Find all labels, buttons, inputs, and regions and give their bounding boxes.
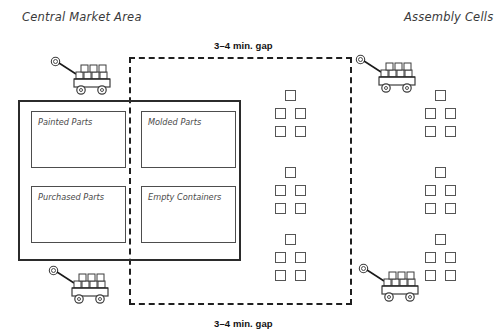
cart-hitch-ring-icon [359,264,367,272]
assembly-workstation-square [445,252,456,263]
assembly-workstation-square [275,252,286,263]
assembly-workstation-square [295,185,306,196]
market-bin-label: Molded Parts [148,117,201,127]
tugger-cart-bottom-left [48,264,120,306]
assembly-workstation-square [425,108,436,119]
cart-hitch-ring-icon [356,55,364,63]
page-title-assembly-cells: Assembly Cells [404,10,493,24]
tugger-cart-top-right [355,53,427,95]
cart-hitch-ring-icon [51,57,59,65]
assembly-workstation-square [275,203,286,214]
assembly-workstation-square [445,203,456,214]
cart-load-box [397,70,404,77]
assembly-workstation-square [445,126,456,137]
cart-load-box [99,65,106,72]
gap-label-bottom: 3–4 min. gap [214,318,273,329]
assembly-workstation-square [285,234,296,245]
page-title-central-market-area: Central Market Area [22,10,142,24]
tugger-cart-top-left [50,55,122,97]
cart-load-box [404,63,411,70]
assembly-workstation-square [445,270,456,281]
assembly-workstation-square [285,90,296,101]
assembly-cell-5 [275,234,306,281]
cart-load-box [398,272,405,279]
cart-load-box [395,63,402,70]
assembly-workstation-square [295,108,306,119]
assembly-workstation-square [425,126,436,137]
cart-load-box [389,272,396,279]
cart-wheel-hub [101,89,104,92]
cart-wheel-hub [385,87,388,90]
assembly-workstation-square [435,167,446,178]
cart-load-box [405,70,412,77]
assembly-workstation-square [435,234,446,245]
cart-load-box [98,281,105,288]
assembly-cell-1 [275,90,306,137]
assembly-workstation-square [275,185,286,196]
assembly-workstation-square [435,90,446,101]
gap-label-top: 3–4 min. gap [214,40,273,51]
cart-load-box [384,279,391,286]
cart-wheel-hub [78,298,81,301]
cart-load-box [386,63,393,70]
assembly-workstation-square [295,270,306,281]
market-bin-purchased-parts: Purchased Parts [31,186,126,243]
cart-load-box [74,281,81,288]
cart-load-box [82,281,89,288]
cart-load-box [400,279,407,286]
cart-load-box [392,279,399,286]
assembly-workstation-square [425,185,436,196]
cart-wheel-hub [409,296,412,299]
market-bin-label: Painted Parts [38,117,92,127]
cart-load-box [90,65,97,72]
assembly-workstation-square [425,203,436,214]
tugger-cart-bottom-right [358,262,430,304]
assembly-workstation-square [275,108,286,119]
cart-load-box [84,72,91,79]
assembly-cell-4 [425,167,456,214]
cart-load-box [100,72,107,79]
cart-load-box [408,279,415,286]
assembly-workstation-square [285,167,296,178]
assembly-workstation-square [275,126,286,137]
market-bin-label: Purchased Parts [38,192,104,202]
cart-load-box [76,72,83,79]
cart-wheel-hub [80,89,83,92]
market-bin-molded-parts: Molded Parts [141,111,236,168]
assembly-workstation-square [295,252,306,263]
cart-load-box [92,72,99,79]
market-bin-empty-containers: Empty Containers [141,186,236,243]
assembly-workstation-square [445,185,456,196]
assembly-workstation-square [295,126,306,137]
cart-wheel-hub [388,296,391,299]
assembly-workstation-square [445,108,456,119]
assembly-cell-3 [275,167,306,214]
cart-wheel-hub [99,298,102,301]
market-bin-painted-parts: Painted Parts [31,111,126,168]
cart-load-box [88,274,95,281]
cart-load-box [81,65,88,72]
cart-load-box [381,70,388,77]
cart-wheel-hub [406,87,409,90]
cart-load-box [389,70,396,77]
cart-load-box [97,274,104,281]
assembly-workstation-square [275,270,286,281]
assembly-cell-2 [425,90,456,137]
cart-load-box [407,272,414,279]
diagram-canvas: Central Market Area Assembly Cells 3–4 m… [0,0,502,336]
assembly-workstation-square [295,203,306,214]
cart-hitch-ring-icon [49,266,57,274]
cart-load-box [90,281,97,288]
cart-load-box [79,274,86,281]
market-bin-label: Empty Containers [148,192,221,202]
